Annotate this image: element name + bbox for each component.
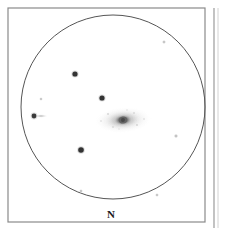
star-faint-bottom-right <box>155 193 159 197</box>
north-orientation-label: N <box>104 209 118 220</box>
star-bright-upper-field <box>71 70 78 77</box>
star-faint-east-field <box>174 134 179 139</box>
star-bright-lower-left-field <box>77 146 85 154</box>
star-faint-upper-left <box>39 97 43 101</box>
star-faint-bottom-left <box>79 189 83 193</box>
sketch-canvas <box>0 0 228 235</box>
star-faint-upper-right <box>162 40 166 44</box>
astronomical-sketch-page: N <box>0 0 228 235</box>
star-bright-upper-left-of-galaxy <box>98 94 105 101</box>
